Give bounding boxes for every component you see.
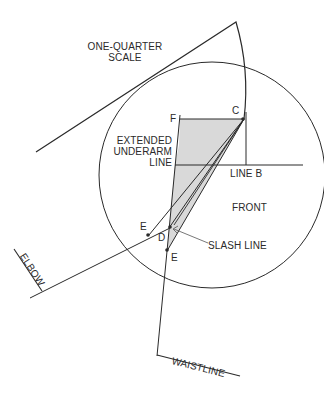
point-c-dot [241,117,245,121]
point-d-dot [168,225,172,229]
slash-line-label: SLASH LINE [208,240,267,251]
point-e-left-label: E [140,221,147,232]
line-b-label: LINE B [230,168,262,179]
scale-label: ONE-QUARTER SCALE [80,41,170,63]
underarm-label-line3: LINE [100,157,172,168]
scale-label-line2: SCALE [80,52,170,63]
point-e-lower-label: E [171,252,178,263]
underarm-label: EXTENDED UNDERARM LINE [100,135,172,168]
point-e-lower-dot [165,248,169,252]
slash-line-pointer [174,229,208,243]
point-d-label: D [158,232,165,243]
point-f-label: F [170,113,176,124]
scale-label-line1: ONE-QUARTER [80,41,170,52]
underarm-label-line1: EXTENDED [100,135,172,146]
point-c-label: C [232,105,239,116]
point-e-left-dot [146,233,150,237]
elbow-line [30,228,170,298]
underarm-label-line2: UNDERARM [100,146,172,157]
front-label: FRONT [232,202,267,213]
